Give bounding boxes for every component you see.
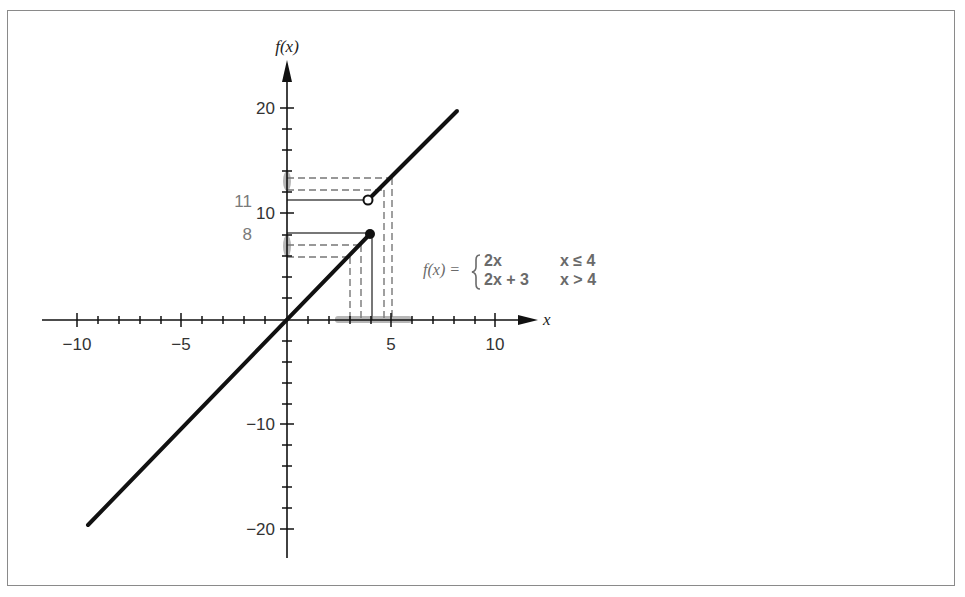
case1-expr: 2x [484, 252, 502, 269]
y-mark-11: 11 [234, 192, 252, 211]
closed-endpoint-dot [365, 229, 375, 239]
series-2x-plus-3 [372, 111, 457, 196]
x-axis-arrow-icon [518, 315, 538, 325]
x-tick-label: −10 [63, 335, 92, 354]
y-axis-label: f(x) [275, 37, 299, 56]
y-tick-label: −20 [246, 520, 275, 539]
axes [42, 60, 538, 558]
case2-expr: 2x + 3 [484, 271, 529, 288]
x-tick-label: 10 [486, 335, 505, 354]
y-tick-label: −10 [246, 415, 275, 434]
open-endpoint-circle [364, 196, 373, 205]
x-tick-label: 5 [386, 335, 395, 354]
formula-annotation: f(x) = 2x x ≤ 4 2x + 3 x > 4 [423, 252, 596, 289]
y-tick-label: 20 [256, 99, 275, 118]
x-axis-label: x [542, 310, 551, 329]
y-tick-label: 10 [256, 204, 275, 223]
case1-cond: x ≤ 4 [560, 252, 596, 269]
guide-lines [287, 178, 392, 320]
series-2x [88, 234, 370, 525]
y-mark-8: 8 [243, 225, 252, 244]
case2-cond: x > 4 [560, 271, 596, 288]
y-axis-arrow-icon [282, 60, 292, 82]
formula-lhs: f(x) = [423, 261, 460, 279]
x-tick-label: −5 [171, 335, 190, 354]
piecewise-function-chart: −10 −5 5 10 20 10 −10 −20 11 8 f(x) x f(… [0, 0, 965, 597]
brace-icon [472, 255, 480, 289]
